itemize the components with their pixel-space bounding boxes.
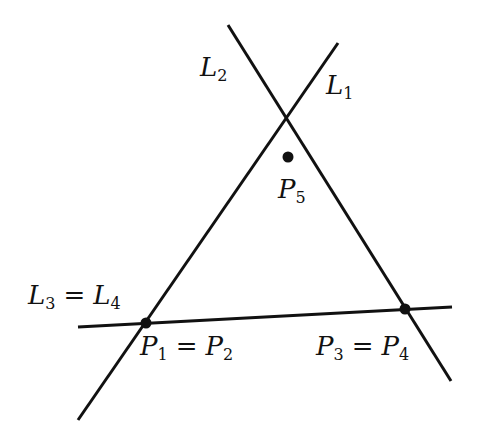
label-p2-sub: 2 (223, 345, 233, 364)
label-p1-main: P (140, 331, 158, 361)
label-p1-sub: 1 (158, 345, 168, 364)
label-l3-eq-l4: L3=L4 (28, 282, 121, 312)
label-p3-main: P (316, 331, 334, 361)
equals-sign: = (63, 280, 85, 310)
label-l3-sub: 3 (45, 294, 55, 313)
line-l3-l4 (78, 307, 452, 327)
point-p3-p4 (400, 304, 411, 315)
label-p5-sub: 5 (296, 188, 306, 207)
point-p5 (283, 152, 294, 163)
label-l2-sub: 2 (217, 66, 227, 85)
label-p5: P5 (278, 176, 306, 206)
line-l1 (78, 43, 338, 420)
equals-sign: = (352, 331, 374, 361)
label-p5-main: P (278, 174, 296, 204)
label-p3-eq-p4: P3=P4 (316, 333, 409, 363)
label-l2: L2 (200, 54, 227, 84)
label-p1-eq-p2: P1=P2 (140, 333, 233, 363)
label-l1-main: L (326, 70, 343, 100)
label-l3-main: L (28, 280, 45, 310)
label-l2-main: L (200, 52, 217, 82)
point-p1-p2 (141, 318, 152, 329)
equals-sign: = (176, 331, 198, 361)
label-l1-sub: 1 (343, 84, 353, 103)
label-p3-sub: 3 (334, 345, 344, 364)
label-l4-main: L (93, 280, 110, 310)
label-p2-main: P (205, 331, 223, 361)
diagram-canvas: L2 L1 P5 L3=L4 P1=P2 P3=P4 (0, 0, 481, 442)
label-l4-sub: 4 (111, 294, 121, 313)
label-p4-main: P (381, 331, 399, 361)
diagram-svg (0, 0, 481, 442)
label-p4-sub: 4 (399, 345, 409, 364)
label-l1: L1 (326, 72, 353, 102)
